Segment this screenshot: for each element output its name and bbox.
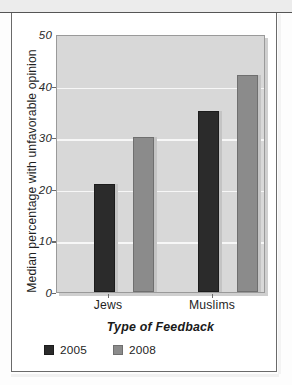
legend-label-2008: 2008 [129, 343, 156, 357]
chart-legend: 2005 2008 [44, 343, 234, 357]
scanned-figure-page: 50 40 30 20 10 0 Median percentage with … [0, 0, 292, 385]
y-tickmark-30 [52, 138, 56, 139]
gridline-10 [57, 242, 264, 243]
gridline-20 [57, 191, 264, 192]
bar-muslims-2008[interactable] [237, 75, 258, 292]
y-axis-title: Median percentage with unfavorable opini… [25, 46, 39, 296]
y-tick-label-50: 50 [8, 29, 52, 41]
y-tickmark-40 [52, 87, 56, 88]
page-top-band [0, 0, 292, 13]
legend-label-2005: 2005 [60, 343, 87, 357]
legend-item-2008[interactable]: 2008 [113, 343, 156, 357]
x-axis-title: Type of Feedback [56, 320, 265, 334]
scan-shadow-right [278, 14, 281, 374]
gridline-30 [57, 139, 264, 140]
bar-muslims-2005[interactable] [198, 111, 219, 292]
legend-item-2005[interactable]: 2005 [44, 343, 87, 357]
plot-area [56, 35, 265, 293]
bar-jews-2005[interactable] [94, 184, 115, 292]
y-tickmark-0 [52, 293, 56, 294]
y-tickmark-20 [52, 190, 56, 191]
legend-swatch-icon-2008 [113, 345, 123, 355]
scan-shadow-bottom [11, 374, 279, 377]
y-tickmark-10 [52, 241, 56, 242]
bar-jews-2008[interactable] [133, 137, 154, 292]
legend-swatch-icon-2005 [44, 345, 54, 355]
x-tick-label-muslims: Muslims [177, 298, 247, 312]
x-tick-label-jews: Jews [73, 298, 143, 312]
gridline-40 [57, 88, 264, 89]
